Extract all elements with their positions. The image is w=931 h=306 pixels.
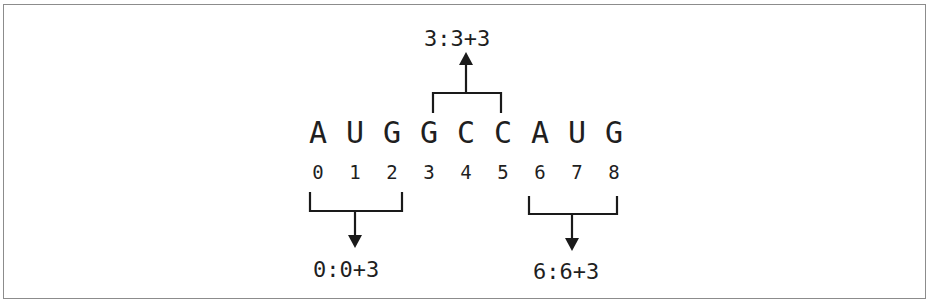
nucleotide: U: [562, 118, 592, 148]
index-label: 0: [303, 162, 333, 182]
nucleotide: G: [414, 118, 444, 148]
nucleotide: G: [599, 118, 629, 148]
index-label: 7: [562, 162, 592, 182]
arrow-down-icon: [565, 238, 579, 251]
codon-bracket-0: [310, 192, 402, 236]
nucleotide: A: [525, 118, 555, 148]
index-label: 6: [525, 162, 555, 182]
index-label: 8: [599, 162, 629, 182]
nucleotide: U: [340, 118, 370, 148]
codon-bracket-1: [433, 64, 501, 113]
nucleotide: C: [488, 118, 518, 148]
nucleotide: G: [377, 118, 407, 148]
index-label: 1: [340, 162, 370, 182]
nucleotide: A: [303, 118, 333, 148]
index-label: 2: [377, 162, 407, 182]
slice-label-codon-1: 3:3+3: [424, 27, 490, 51]
slice-label-codon-0: 0:0+3: [313, 258, 379, 282]
arrow-up-icon: [459, 52, 473, 65]
index-label: 5: [488, 162, 518, 182]
slice-label-codon-2: 6:6+3: [533, 260, 599, 284]
index-label: 3: [414, 162, 444, 182]
index-label: 4: [451, 162, 481, 182]
arrow-down-icon: [348, 235, 362, 248]
nucleotide: C: [451, 118, 481, 148]
codon-bracket-2: [529, 196, 617, 239]
